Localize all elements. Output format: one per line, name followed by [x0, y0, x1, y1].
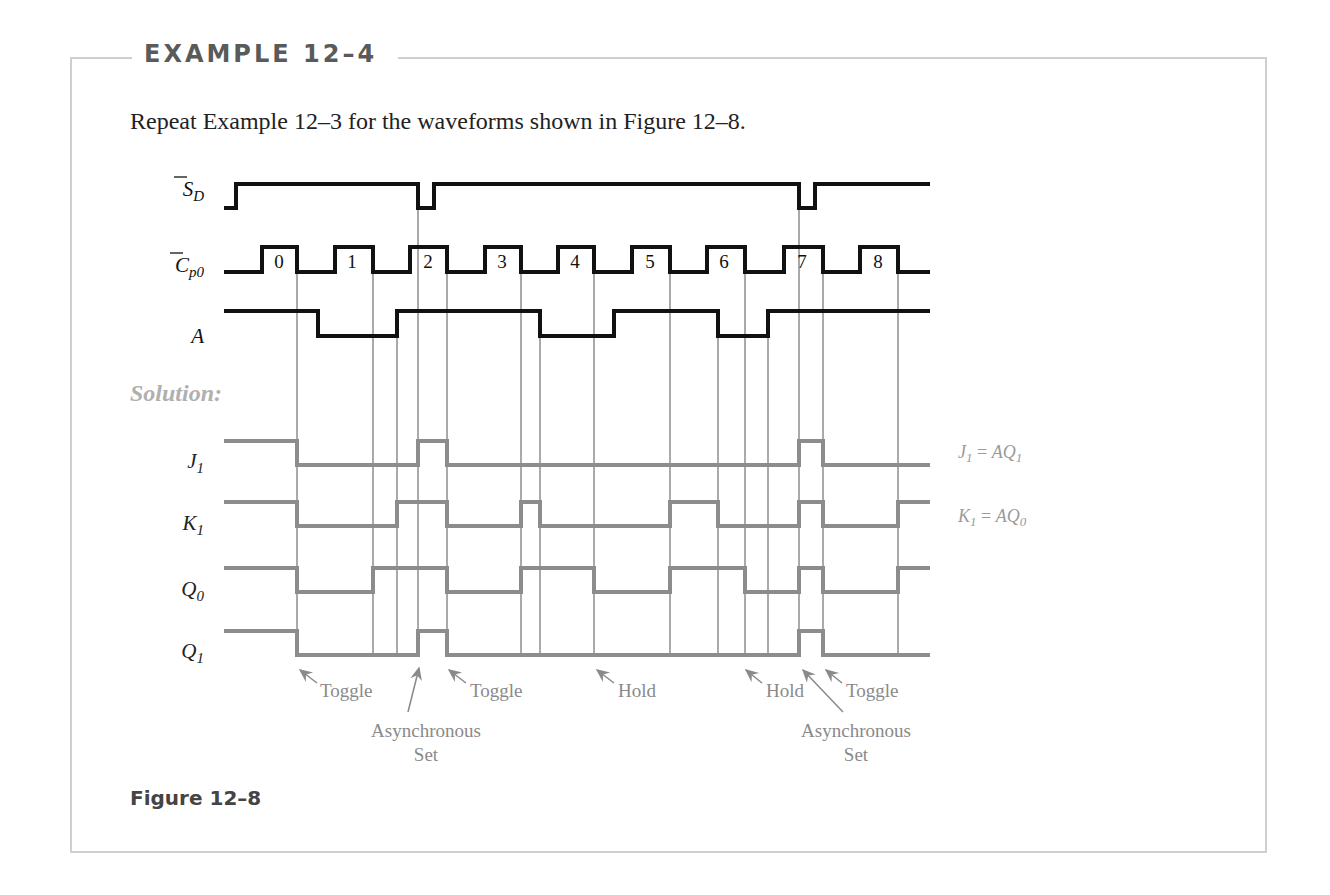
clock-pulse-number: 0: [274, 251, 284, 272]
clock-pulse-number: 5: [645, 251, 655, 272]
clock-pulse-numbers: 012345678: [274, 251, 883, 272]
signal-label-j1: J1: [187, 449, 204, 476]
output-waveforms: [224, 441, 930, 655]
clock-pulse-number: 1: [347, 251, 357, 272]
annotation-toggle: Toggle: [846, 680, 899, 701]
solution-label: Solution:: [130, 380, 222, 406]
annotation-arrow-icon: [746, 670, 762, 683]
waveform-k1: [224, 502, 930, 526]
annotation-arrow-icon: [803, 670, 843, 712]
waveform-q0: [224, 568, 930, 592]
annotation-hold: Hold: [766, 680, 805, 701]
clock-pulse-number: 8: [873, 251, 883, 272]
waveform-q1: [224, 631, 930, 655]
annotations: ToggleAsynchronousSetToggleHoldHoldToggl…: [300, 668, 911, 765]
equations: J1 = AQ1K1 = AQ0: [957, 442, 1027, 529]
waveform-s_d: [224, 184, 930, 208]
annotation-asynchronous-set: Asynchronous: [801, 720, 911, 741]
signal-label-q0: Q0: [181, 577, 204, 604]
waveform-j1: [224, 441, 930, 465]
annotation-hold: Hold: [618, 680, 657, 701]
annotation-toggle: Toggle: [320, 680, 373, 701]
annotation-arrow-icon: [597, 670, 614, 683]
clock-pulse-number: 7: [797, 251, 807, 272]
signal-label-a: A: [189, 324, 204, 348]
annotation-arrow-icon: [449, 670, 466, 683]
clock-pulse-number: 4: [570, 251, 580, 272]
waveform-a: [224, 311, 930, 336]
timing-diagram: 012345678 SDCp0AJ1K1Q0Q1 Solution: J1 = …: [0, 0, 1330, 895]
guide-lines: [297, 208, 898, 655]
equation-j1: J1 = AQ1: [958, 442, 1022, 465]
equation-k1: K1 = AQ0: [957, 506, 1027, 529]
annotation-arrow-icon: [300, 670, 317, 683]
annotation-arrow-icon: [826, 670, 842, 683]
annotation-asynchronous-set: Set: [844, 744, 869, 765]
signal-label-q1: Q1: [181, 639, 204, 666]
signal-label-s_d: SD: [183, 177, 205, 204]
clock-pulse-number: 6: [719, 251, 729, 272]
clock-pulse-number: 3: [497, 251, 507, 272]
annotation-asynchronous-set: Asynchronous: [371, 720, 481, 741]
annotation-toggle: Toggle: [470, 680, 523, 701]
annotation-asynchronous-set: Set: [414, 744, 439, 765]
signal-label-cp0: Cp0: [175, 253, 205, 280]
signal-labels: SDCp0AJ1K1Q0Q1: [170, 177, 205, 666]
clock-pulse-number: 2: [423, 251, 433, 272]
annotation-arrow-icon: [408, 668, 419, 712]
signal-label-k1: K1: [181, 511, 204, 538]
